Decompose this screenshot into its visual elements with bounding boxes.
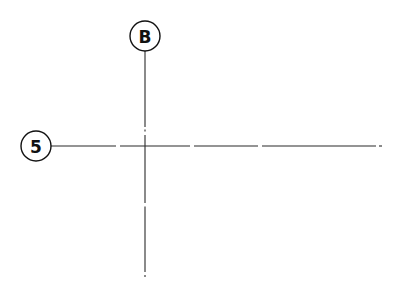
grid-bubble-5: 5 xyxy=(21,131,51,161)
grid-bubble-b: B xyxy=(130,21,160,51)
grid-label-b: B xyxy=(139,27,152,47)
grid-diagram-canvas: B 5 xyxy=(0,0,395,286)
grid-label-5: 5 xyxy=(30,137,42,157)
